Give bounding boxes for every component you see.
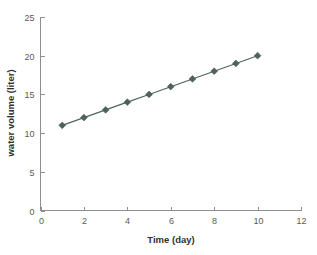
line-chart: 0510152025 024681012 Time (day) water vo… [0, 0, 317, 255]
data-point-marker [254, 52, 261, 59]
y-tick-label: 25 [24, 13, 34, 23]
data-point-marker [81, 114, 88, 121]
data-point-marker [124, 99, 131, 106]
data-point-marker [146, 91, 153, 98]
x-tick-group: 024681012 [39, 207, 307, 226]
x-tick-label: 0 [39, 216, 44, 226]
y-tick-label: 15 [24, 90, 34, 100]
x-tick-label: 12 [296, 216, 306, 226]
x-tick-label: 4 [125, 216, 130, 226]
series-group [59, 52, 261, 128]
y-tick-label: 5 [29, 168, 34, 178]
data-point-marker [59, 122, 66, 129]
x-tick-label: 2 [82, 216, 87, 226]
x-tick-label: 10 [253, 216, 263, 226]
chart-container: 0510152025 024681012 Time (day) water vo… [0, 0, 317, 255]
y-axis-title: water volume (liter) [5, 69, 16, 157]
x-axis-title: Time (day) [147, 234, 194, 245]
series-line-water-volume [62, 56, 257, 126]
x-tick-label: 6 [169, 216, 174, 226]
y-tick-label: 10 [24, 129, 34, 139]
y-tick-group: 0510152025 [24, 13, 44, 217]
x-tick-label: 8 [212, 216, 217, 226]
data-point-marker [189, 76, 196, 83]
y-tick-label: 0 [29, 207, 34, 217]
data-point-marker [211, 68, 218, 75]
y-tick-label: 20 [24, 52, 34, 62]
data-point-marker [102, 106, 109, 113]
data-point-marker [232, 60, 239, 67]
data-point-marker [167, 83, 174, 90]
